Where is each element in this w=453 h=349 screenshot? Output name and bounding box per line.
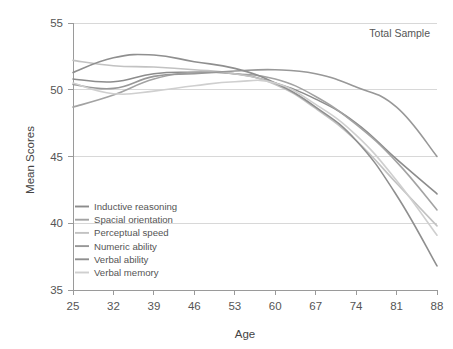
x-tick-label-32: 32 xyxy=(107,300,120,312)
series-line-0 xyxy=(73,72,437,194)
x-tick-label-53: 53 xyxy=(228,300,241,312)
legend-label-5: Verbal memory xyxy=(94,267,159,278)
y-tick-label-55: 55 xyxy=(50,17,63,29)
x-tick-label-46: 46 xyxy=(188,300,201,312)
x-tick-label-81: 81 xyxy=(390,300,403,312)
y-tick-label-50: 50 xyxy=(50,84,63,96)
series-line-1 xyxy=(73,72,437,210)
x-tick-label-60: 60 xyxy=(269,300,282,312)
legend-label-0: Inductive reasoning xyxy=(94,201,177,212)
legend-label-2: Perceptual speed xyxy=(94,227,169,238)
total-sample-annotation: Total Sample xyxy=(369,27,430,39)
series-line-5 xyxy=(73,80,437,235)
y-tick-label-45: 45 xyxy=(50,151,63,163)
x-tick-label-74: 74 xyxy=(350,300,363,312)
legend: Inductive reasoningSpacial orientationPe… xyxy=(75,201,177,278)
y-tick-label-40: 40 xyxy=(50,217,63,229)
legend-label-3: Numeric ability xyxy=(94,241,157,252)
legend-label-1: Spacial orientation xyxy=(94,214,173,225)
x-tick-label-67: 67 xyxy=(309,300,322,312)
legend-label-4: Verbal ability xyxy=(94,254,149,265)
chart-canvas: 3540455055 25323946536067748188 Inductiv… xyxy=(0,0,453,349)
y-axis-tick-labels: 3540455055 xyxy=(50,17,63,296)
series-line-3 xyxy=(73,70,437,157)
x-axis-tick-labels: 25323946536067748188 xyxy=(67,300,444,312)
x-axis-title: Age xyxy=(235,328,255,340)
y-tick-label-35: 35 xyxy=(50,284,63,296)
x-tick-label-39: 39 xyxy=(147,300,160,312)
cognitive-abilities-line-chart: 3540455055 25323946536067748188 Inductiv… xyxy=(0,0,453,349)
y-axis-title: Mean Scores xyxy=(24,126,36,194)
x-tick-label-25: 25 xyxy=(67,300,80,312)
x-tick-label-88: 88 xyxy=(431,300,444,312)
